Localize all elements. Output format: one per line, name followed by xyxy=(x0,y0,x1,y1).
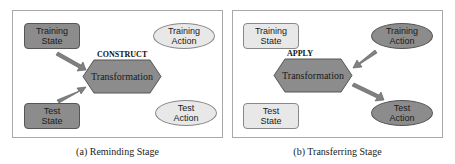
caption-b: (b) Transferring Stage xyxy=(232,146,443,157)
arrow-icon xyxy=(353,50,377,68)
arrow-icon xyxy=(352,83,384,101)
arrows xyxy=(13,11,224,139)
panel-transferring-stage: TrainingState TestState TrainingAction T… xyxy=(232,10,443,138)
arrow-icon xyxy=(56,52,86,71)
caption-a: (a) Reminding Stage xyxy=(12,146,223,157)
arrow-icon xyxy=(57,87,86,103)
panel-reminding-stage: TrainingState TestState TrainingAction T… xyxy=(12,10,223,138)
arrows xyxy=(233,11,444,139)
